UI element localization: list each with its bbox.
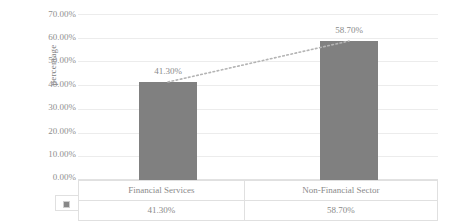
y-tick-label: 20.00% — [24, 127, 76, 136]
table-row-headers: Financial Services Non-Financial Sector — [79, 181, 438, 201]
gridline — [78, 61, 438, 62]
trend-line — [78, 14, 438, 180]
y-tick-label: 10.00% — [24, 150, 76, 159]
data-table: Financial Services Non-Financial Sector … — [78, 180, 438, 221]
bar-non-financial-sector[interactable] — [320, 41, 378, 180]
table-value-cell: 41.30% — [79, 201, 245, 221]
table-value-cell: 58.70% — [244, 201, 437, 221]
table-header-cell: Financial Services — [79, 181, 245, 201]
gridline — [78, 38, 438, 39]
y-tick-label: 0.00% — [24, 173, 76, 182]
gridline — [78, 156, 438, 157]
y-tick-label: 60.00% — [24, 33, 76, 42]
chart-container: percentage 70.00% 60.00% 50.00% 40.00% 3… — [0, 0, 456, 224]
table-header-cell: Non-Financial Sector — [244, 181, 437, 201]
gridline — [78, 14, 438, 15]
y-tick-label: 70.00% — [24, 10, 76, 19]
plot-area: 41.30% 58.70% — [78, 14, 438, 180]
gridline — [78, 133, 438, 134]
table-row-values: 41.30% 58.70% — [79, 201, 438, 221]
bar-value-label-non-financial-sector: 58.70% — [314, 25, 384, 35]
bar-financial-services[interactable] — [139, 82, 197, 180]
gridline — [78, 109, 438, 110]
y-tick-label: 40.00% — [24, 80, 76, 89]
y-axis-tick-labels: 70.00% 60.00% 50.00% 40.00% 30.00% 20.00… — [22, 0, 76, 180]
legend-color-swatch — [63, 201, 70, 208]
y-tick-label: 30.00% — [24, 103, 76, 112]
bar-value-label-financial-services: 41.30% — [133, 66, 203, 76]
legend-swatch-cell — [55, 195, 79, 211]
gridline — [78, 85, 438, 86]
y-tick-label: 50.00% — [24, 56, 76, 65]
